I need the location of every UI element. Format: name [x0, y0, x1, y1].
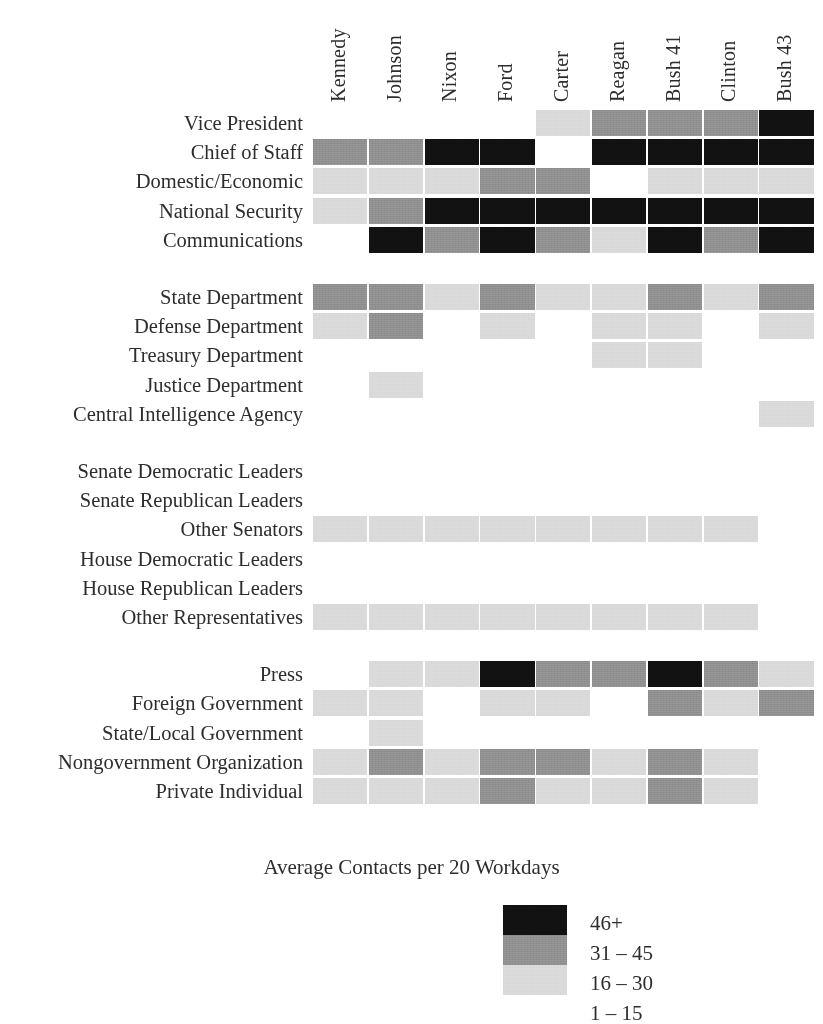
- heatmap-cell: [759, 778, 813, 804]
- heatmap-cell: [536, 372, 590, 398]
- heatmap-cell: [648, 604, 702, 630]
- heatmap-cell: [704, 487, 758, 513]
- cell-texture: [592, 284, 646, 310]
- heatmap-cell: [480, 342, 534, 368]
- legend-label: 16 – 30: [590, 971, 740, 996]
- heatmap-cell: [704, 690, 758, 716]
- cell-texture: [704, 690, 758, 716]
- column-header-nixon: Nixon: [425, 0, 481, 104]
- heatmap-cell: [536, 661, 590, 687]
- heatmap-cell: [369, 372, 423, 398]
- cell-texture: [704, 227, 758, 253]
- heatmap-cell: [313, 575, 367, 601]
- heatmap-cell: [536, 139, 590, 165]
- cell-texture: [369, 198, 423, 224]
- heatmap-cell: [759, 313, 813, 339]
- heatmap-cell: [369, 313, 423, 339]
- heatmap-cell: [759, 604, 813, 630]
- heatmap-cell: [592, 749, 646, 775]
- cell-texture: [313, 284, 367, 310]
- heatmap-cell: [425, 690, 479, 716]
- cell-texture: [536, 284, 590, 310]
- heatmap-cell: [759, 372, 813, 398]
- heatmap-cell: [480, 139, 534, 165]
- heatmap-cell: [369, 604, 423, 630]
- heatmap-cell: [704, 313, 758, 339]
- heatmap-cell: [704, 604, 758, 630]
- heatmap-cell: [648, 575, 702, 601]
- cell-texture: [536, 690, 590, 716]
- heatmap-cell: [704, 198, 758, 224]
- heatmap-cell: [759, 227, 813, 253]
- heatmap-cell: [592, 604, 646, 630]
- heatmap-cell: [480, 778, 534, 804]
- heatmap-cell: [369, 720, 423, 746]
- heatmap-chart: KennedyJohnsonNixonFordCarterReaganBush …: [0, 0, 823, 1024]
- cell-texture: [704, 778, 758, 804]
- cell-texture: [592, 749, 646, 775]
- heatmap-cell: [536, 546, 590, 572]
- heatmap-cell: [425, 110, 479, 136]
- cell-texture: [369, 749, 423, 775]
- heatmap-cell: [536, 227, 590, 253]
- column-header-label: Bush 43: [773, 34, 796, 102]
- cell-texture: [425, 227, 479, 253]
- heatmap-cell: [592, 227, 646, 253]
- column-header-carter: Carter: [536, 0, 592, 104]
- cell-texture: [759, 168, 813, 194]
- cell-texture: [536, 198, 590, 224]
- heatmap-cell: [480, 227, 534, 253]
- heatmap-cell: [369, 110, 423, 136]
- heatmap-cell: [536, 720, 590, 746]
- cell-texture: [704, 516, 758, 542]
- row-label: Communications: [0, 230, 303, 251]
- cell-texture: [704, 110, 758, 136]
- heatmap-cell: [536, 575, 590, 601]
- cell-texture: [536, 604, 590, 630]
- cell-texture: [536, 516, 590, 542]
- cell-texture: [536, 227, 590, 253]
- cell-texture: [313, 749, 367, 775]
- heatmap-cell: [369, 284, 423, 310]
- cell-texture: [536, 110, 590, 136]
- cell-texture: [592, 778, 646, 804]
- heatmap-cell: [369, 546, 423, 572]
- heatmap-cell: [704, 342, 758, 368]
- heatmap-cell: [592, 139, 646, 165]
- heatmap-cell: [313, 139, 367, 165]
- heatmap-cell: [425, 168, 479, 194]
- cell-texture: [503, 935, 567, 965]
- heatmap-cell: [648, 401, 702, 427]
- heatmap-cell: [313, 342, 367, 368]
- cell-texture: [648, 516, 702, 542]
- heatmap-cell: [592, 516, 646, 542]
- heatmap-cell: [704, 372, 758, 398]
- heatmap-cell: [480, 372, 534, 398]
- heatmap-cell: [369, 342, 423, 368]
- heatmap-cell: [313, 458, 367, 484]
- heatmap-cell: [704, 458, 758, 484]
- cell-texture: [759, 198, 813, 224]
- heatmap-cell: [592, 661, 646, 687]
- cell-texture: [536, 139, 590, 165]
- heatmap-cell: [536, 284, 590, 310]
- row-label: State/Local Government: [0, 723, 303, 744]
- heatmap-cell: [313, 778, 367, 804]
- heatmap-cell: [704, 284, 758, 310]
- cell-texture: [759, 401, 813, 427]
- cell-texture: [648, 778, 702, 804]
- row-label: State Department: [0, 287, 303, 308]
- cell-texture: [480, 139, 534, 165]
- cell-texture: [425, 778, 479, 804]
- heatmap-cell: [592, 110, 646, 136]
- cell-texture: [648, 604, 702, 630]
- heatmap-cell: [648, 342, 702, 368]
- row-label: Other Representatives: [0, 607, 303, 628]
- cell-texture: [369, 604, 423, 630]
- heatmap-cell: [648, 546, 702, 572]
- heatmap-cell: [592, 198, 646, 224]
- heatmap-cell: [313, 516, 367, 542]
- heatmap-cell: [536, 749, 590, 775]
- heatmap-cell: [313, 720, 367, 746]
- cell-texture: [592, 168, 646, 194]
